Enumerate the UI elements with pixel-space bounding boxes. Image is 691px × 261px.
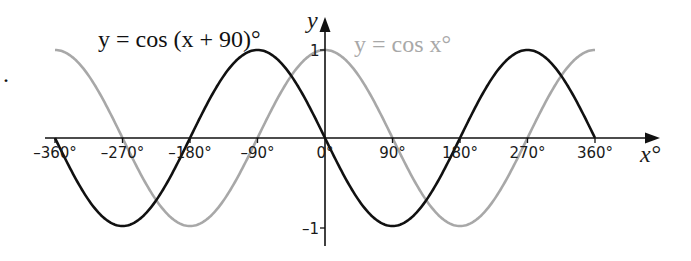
x-tick-label: 180° [442,144,478,162]
y-tick-label-1: 1 [310,42,320,60]
x-axis-label: x° [639,141,661,167]
cosine-graph: . 1 –1 –360°–270°–180°–90°0°90°180°270°3… [0,0,691,261]
x-tick-label: –360° [33,144,77,162]
x-tick-label: 90° [379,144,406,162]
y-axis-label: y [305,7,318,33]
x-tick-label: –90° [240,144,274,162]
y-tick-label-minus-1: –1 [302,220,319,238]
bullet-mark: . [3,61,9,87]
x-tick-label: –180° [168,144,212,162]
x-tick-label: –270° [101,144,145,162]
x-tick-label: 0° [316,144,333,162]
equation-label-black: y = cos (x + 90)° [98,26,261,52]
x-tick-label: 360° [577,144,613,162]
y-axis-arrow-icon [320,17,331,32]
x-tick-label: 270° [509,144,545,162]
equation-label-gray: y = cos x° [354,31,451,57]
